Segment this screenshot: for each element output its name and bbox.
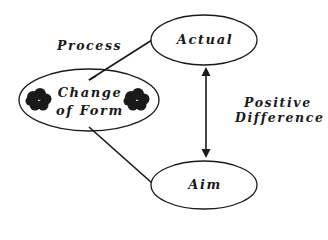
process-edge-label: Process bbox=[57, 40, 122, 53]
process-connector-tip bbox=[89, 76, 96, 80]
change-to-aim-connector bbox=[89, 127, 152, 183]
blob-right-icon bbox=[124, 88, 150, 111]
blob-left-icon bbox=[26, 88, 52, 111]
change-of-form-label-line1: Change bbox=[54, 86, 126, 99]
actual-node-label: Actual bbox=[174, 33, 236, 46]
positive-difference-arrow bbox=[202, 67, 211, 158]
aim-node-label: Aim bbox=[180, 178, 230, 191]
positive-difference-label-line2: Difference bbox=[235, 112, 325, 125]
positive-difference-label-line1: Positive bbox=[244, 97, 312, 110]
change-of-form-label-line2: of Form bbox=[54, 104, 126, 117]
